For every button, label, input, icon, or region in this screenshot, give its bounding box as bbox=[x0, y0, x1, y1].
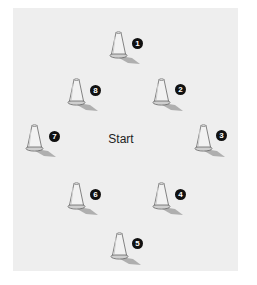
cone-number-badge-8: 8 bbox=[90, 85, 101, 96]
cone-icon-3 bbox=[195, 124, 235, 160]
cone-icon-6 bbox=[68, 182, 108, 218]
cone-number-badge-4: 4 bbox=[175, 189, 186, 200]
cone-icon-1 bbox=[110, 31, 150, 67]
cone-number-badge-3: 3 bbox=[216, 130, 227, 141]
cone-number-badge-5: 5 bbox=[132, 238, 143, 249]
cone-number-badge-2: 2 bbox=[175, 84, 186, 95]
cone-number-badge-1: 1 bbox=[132, 38, 143, 49]
cone-number-badge-7: 7 bbox=[49, 131, 60, 142]
cone-icon-4 bbox=[153, 182, 193, 218]
cone-icon-7 bbox=[26, 124, 66, 160]
start-label: Start bbox=[108, 132, 133, 146]
cone-icon-8 bbox=[68, 78, 108, 114]
cone-icon-2 bbox=[153, 78, 193, 114]
cone-icon-5 bbox=[111, 232, 151, 268]
cone-number-badge-6: 6 bbox=[90, 189, 101, 200]
